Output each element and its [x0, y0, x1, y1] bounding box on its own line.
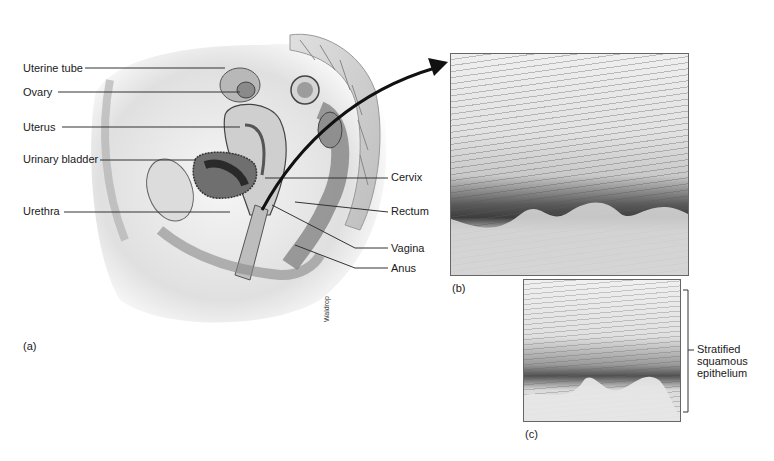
- label-anus: Anus: [391, 262, 416, 274]
- bracket-label-line3: epithelium: [697, 367, 748, 379]
- panel-label-b: (b): [452, 282, 465, 294]
- panel-label-c: (c): [525, 428, 538, 440]
- illustrator-credit: Waldrop: [323, 296, 330, 322]
- label-cervix: Cervix: [391, 171, 422, 183]
- micrograph-c: [523, 279, 681, 422]
- basal-layer-shape: [451, 54, 688, 275]
- label-rectum: Rectum: [391, 205, 429, 217]
- bracket-label-line2: squamous: [697, 355, 748, 367]
- label-urethra: Urethra: [23, 205, 60, 217]
- label-ovary: Ovary: [23, 86, 52, 98]
- basal-layer-shape-c: [524, 280, 680, 421]
- label-vagina: Vagina: [391, 242, 424, 254]
- label-uterus: Uterus: [23, 121, 55, 133]
- label-uterine-tube: Uterine tube: [23, 62, 83, 74]
- bracket-label: Stratified squamous epithelium: [697, 343, 748, 379]
- label-urinary-bladder: Urinary bladder: [23, 153, 98, 165]
- panel-label-a: (a): [23, 340, 36, 352]
- micrograph-b: [450, 53, 689, 276]
- bracket-label-line1: Stratified: [697, 343, 748, 355]
